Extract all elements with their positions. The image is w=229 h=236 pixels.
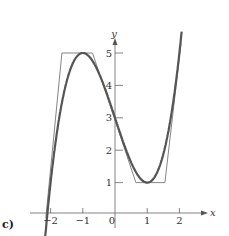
y-tick-label: 3: [106, 112, 112, 123]
y-tick-label: 5: [106, 48, 112, 59]
y-tick-label: 1: [106, 177, 112, 188]
x-tick-label: 0: [109, 215, 115, 226]
y-tick-label: 2: [106, 145, 112, 156]
piecewise-linear-line: [46, 43, 181, 218]
smooth-curve-line: [45, 32, 182, 236]
x-axis-arrow-icon: [201, 211, 208, 216]
y-axis-arrow-icon: [113, 38, 118, 45]
x-axis-label: x: [210, 207, 216, 218]
series-group: [45, 32, 182, 236]
panel-label: c): [2, 218, 14, 231]
chart: −2−101212345xyc): [0, 0, 229, 236]
y-tick-label: 4: [106, 80, 112, 91]
x-tick-label: 2: [176, 215, 182, 226]
x-tick-label: −2: [43, 215, 58, 226]
y-axis-label: y: [110, 28, 117, 39]
x-tick-label: −1: [75, 215, 90, 226]
labels: −2−101212345xyc): [2, 28, 216, 231]
x-tick-label: 1: [144, 215, 150, 226]
